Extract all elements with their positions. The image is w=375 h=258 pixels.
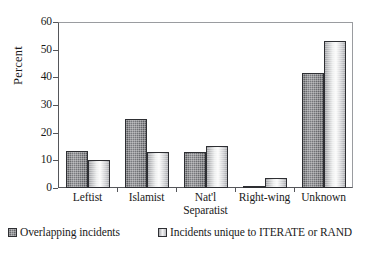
y-tick-label: 30: [41, 99, 52, 111]
y-tick-label: 50: [41, 44, 52, 56]
x-axis-label-line: Right-wing: [235, 191, 294, 204]
bar-group: [58, 22, 117, 188]
bar-series2: [265, 178, 287, 188]
x-tick-mark: [235, 188, 236, 192]
bar-series1: [184, 152, 206, 188]
legend-label-series1: Overlapping incidents: [20, 226, 120, 238]
bar-series2: [147, 152, 169, 188]
x-tick-mark: [294, 188, 295, 192]
bar-series1: [66, 151, 88, 188]
bar-series1: [243, 186, 265, 188]
bar-group: [176, 22, 235, 188]
bar-group: [117, 22, 176, 188]
y-tick-label: 10: [41, 155, 52, 167]
legend-label-series2: Incidents unique to ITERATE or RAND: [170, 226, 352, 238]
legend-item-0: Overlapping incidents: [8, 226, 120, 238]
y-axis: Percent 0102030405060: [0, 0, 58, 190]
y-axis-title: Percent: [11, 0, 26, 136]
y-tick-label: 40: [41, 72, 52, 84]
y-tick-label: 0: [46, 182, 52, 194]
bar-series2: [324, 41, 346, 188]
x-axis-label: Nat'lSeparatist: [176, 191, 235, 216]
bar-group: [294, 22, 353, 188]
y-tick-mark: [53, 188, 58, 189]
y-tick-label: 20: [41, 127, 52, 139]
x-axis-label: Islamist: [117, 191, 176, 204]
x-tick-mark: [176, 188, 177, 192]
x-axis-label-line: Nat'l: [176, 191, 235, 204]
legend-item-1: Incidents unique to ITERATE or RAND: [158, 226, 352, 238]
x-axis-label-line: Separatist: [176, 204, 235, 217]
bar-group: [235, 22, 294, 188]
x-axis-label: Leftist: [58, 191, 117, 204]
x-axis-label-line: Islamist: [117, 191, 176, 204]
x-tick-mark: [117, 188, 118, 192]
x-axis-label-line: Unknown: [294, 191, 353, 204]
bar-series1: [125, 119, 147, 188]
chart-legend: Overlapping incidents Incidents unique t…: [0, 226, 375, 246]
x-axis-label-line: Leftist: [58, 191, 117, 204]
bar-series2: [88, 160, 110, 188]
x-axis-labels: LeftistIslamistNat'lSeparatistRight-wing…: [58, 191, 353, 221]
y-tick-label: 60: [41, 16, 52, 28]
legend-swatch-icon-series2: [158, 228, 167, 237]
bar-series1: [302, 73, 324, 188]
x-axis-label: Unknown: [294, 191, 353, 204]
x-axis-label: Right-wing: [235, 191, 294, 204]
legend-swatch-icon-series1: [8, 228, 17, 237]
bar-series2: [206, 146, 228, 188]
bar-chart: Percent 0102030405060 LeftistIslamistNat…: [0, 0, 375, 258]
bars-layer: [58, 22, 353, 188]
